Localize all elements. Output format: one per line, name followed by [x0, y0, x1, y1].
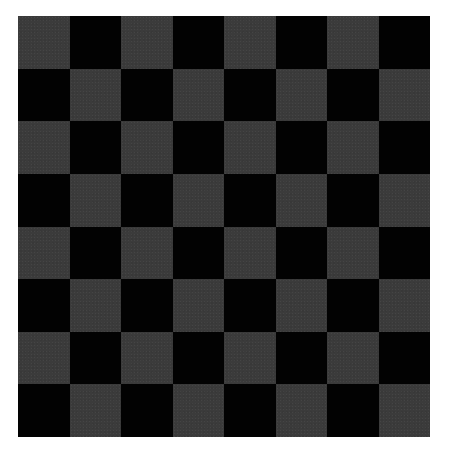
board-square: [173, 16, 225, 69]
board-square: [70, 121, 122, 174]
board-square: [121, 121, 173, 174]
board-square: [327, 227, 379, 280]
board-square: [70, 332, 122, 385]
board-square: [18, 69, 70, 122]
board-square: [18, 227, 70, 280]
board-square: [224, 384, 276, 437]
board-square: [121, 69, 173, 122]
board-square: [70, 227, 122, 280]
board-square: [327, 121, 379, 174]
board-square: [70, 384, 122, 437]
board-square: [121, 227, 173, 280]
board-square: [173, 227, 225, 280]
board-square: [70, 174, 122, 227]
board-square: [173, 332, 225, 385]
board-square: [276, 174, 328, 227]
board-square: [379, 174, 431, 227]
board-square: [121, 174, 173, 227]
board-square: [18, 121, 70, 174]
board-square: [379, 227, 431, 280]
board-square: [173, 174, 225, 227]
board-square: [379, 279, 431, 332]
board-square: [276, 227, 328, 280]
board-square: [327, 69, 379, 122]
board-square: [173, 384, 225, 437]
board-square: [18, 16, 70, 69]
board-square: [224, 16, 276, 69]
board-square: [18, 332, 70, 385]
board-square: [379, 384, 431, 437]
board-square: [224, 332, 276, 385]
board-square: [224, 69, 276, 122]
board-square: [276, 279, 328, 332]
board-square: [173, 121, 225, 174]
board-square: [18, 384, 70, 437]
board-square: [18, 174, 70, 227]
board-square: [276, 69, 328, 122]
board-square: [379, 332, 431, 385]
board-square: [121, 16, 173, 69]
board-square: [173, 279, 225, 332]
board-square: [121, 332, 173, 385]
board-square: [327, 174, 379, 227]
board-square: [70, 69, 122, 122]
board-square: [327, 16, 379, 69]
board-square: [224, 279, 276, 332]
board-square: [276, 332, 328, 385]
board-square: [224, 174, 276, 227]
board-square: [121, 384, 173, 437]
checkerboard: [18, 16, 430, 437]
board-square: [18, 279, 70, 332]
board-square: [379, 69, 431, 122]
board-square: [327, 279, 379, 332]
board-square: [224, 227, 276, 280]
board-square: [276, 121, 328, 174]
board-square: [70, 279, 122, 332]
board-square: [224, 121, 276, 174]
board-square: [327, 332, 379, 385]
board-square: [327, 384, 379, 437]
board-square: [276, 16, 328, 69]
board-square: [70, 16, 122, 69]
board-square: [276, 384, 328, 437]
board-square: [379, 16, 431, 69]
board-square: [173, 69, 225, 122]
board-square: [379, 121, 431, 174]
board-square: [121, 279, 173, 332]
